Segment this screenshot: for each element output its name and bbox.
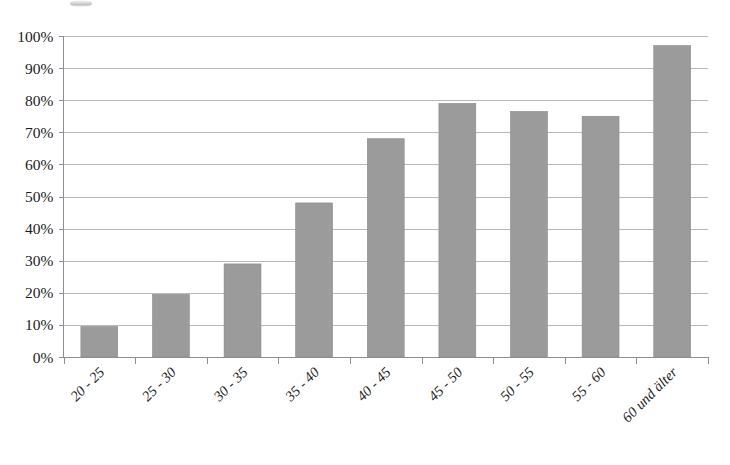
x-axis-tick-labels: 20 - 2525 - 3030 - 3535 - 4040 - 4545 - …: [67, 363, 681, 425]
bar: [152, 294, 189, 357]
y-axis-tick-label: 90%: [25, 60, 54, 77]
bars-group: [81, 46, 691, 357]
bar: [367, 139, 404, 357]
y-axis-tick-label: 30%: [25, 252, 54, 269]
y-axis-tick-label: 60%: [25, 156, 54, 173]
y-axis-tick-label: 50%: [25, 188, 54, 205]
bar: [511, 111, 548, 357]
x-axis-tick-label: 25 - 30: [139, 363, 180, 404]
y-axis-tick-label: 10%: [25, 316, 54, 333]
y-axis-tick-label: 100%: [17, 28, 53, 45]
x-axis-tick-label: 45 - 50: [425, 363, 466, 404]
x-axis-tick-label: 35 - 40: [281, 363, 323, 405]
x-axis-tick-label: 40 - 45: [353, 364, 393, 404]
bar: [582, 116, 619, 357]
bar: [439, 103, 476, 357]
y-axis-tick-label: 0%: [33, 349, 54, 366]
bar: [224, 264, 261, 357]
y-axis-tick-label: 20%: [25, 284, 54, 301]
chart-canvas: 0%10%20%30%40%50%60%70%80%90%100% 20 - 2…: [0, 0, 730, 465]
x-axis-tick-label: 30 - 35: [210, 364, 251, 405]
y-axis-tick-label: 80%: [25, 92, 54, 109]
bar: [81, 327, 118, 358]
x-axis-tick-label: 60 und älter: [619, 364, 681, 426]
bar-chart-figure: 0%10%20%30%40%50%60%70%80%90%100% 20 - 2…: [0, 0, 730, 465]
y-axis-tick-label: 70%: [25, 124, 54, 141]
y-axis-tick-labels: 0%10%20%30%40%50%60%70%80%90%100%: [17, 28, 63, 366]
x-axis-tick-label: 20 - 25: [67, 364, 107, 404]
bar: [654, 46, 691, 357]
x-axis-tick-label: 55 - 60: [568, 363, 609, 404]
bar: [296, 203, 333, 357]
y-axis-tick-label: 40%: [25, 220, 54, 237]
x-axis-tick-label: 50 - 55: [497, 364, 537, 404]
